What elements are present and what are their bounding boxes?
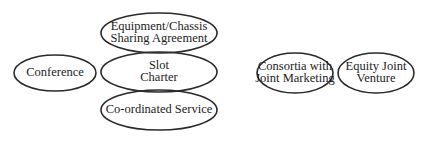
- label-conference: Conference: [26, 65, 84, 79]
- label-slot-charter: SlotCharter: [140, 58, 178, 85]
- node-equity-joint-venture: Equity JointVenture: [338, 53, 414, 93]
- node-consortia-joint-marketing: Consortia withJoint Marketing: [255, 53, 335, 93]
- node-conference: Conference: [14, 55, 96, 91]
- node-coordinated-service: Co-ordinated Service: [101, 90, 217, 130]
- label-equipment-chassis-sharing: Equipment/ChassisSharing Agreement: [111, 19, 208, 46]
- label-line: Charter: [140, 70, 178, 84]
- label-line: Sharing Agreement: [111, 31, 208, 45]
- label-coordinated-service: Co-ordinated Service: [106, 102, 213, 116]
- label-line: Co-ordinated Service: [106, 102, 213, 116]
- label-line: Joint Marketing: [255, 71, 335, 85]
- node-slot-charter: SlotCharter: [101, 52, 217, 92]
- label-consortia-joint-marketing: Consortia withJoint Marketing: [255, 59, 335, 86]
- label-equity-joint-venture: Equity JointVenture: [346, 59, 407, 86]
- label-line: Venture: [357, 71, 396, 85]
- node-equipment-chassis-sharing: Equipment/ChassisSharing Agreement: [101, 13, 217, 53]
- cooperation-forms-diagram: Conference Equipment/ChassisSharing Agre…: [0, 0, 430, 146]
- label-line: Conference: [26, 65, 84, 79]
